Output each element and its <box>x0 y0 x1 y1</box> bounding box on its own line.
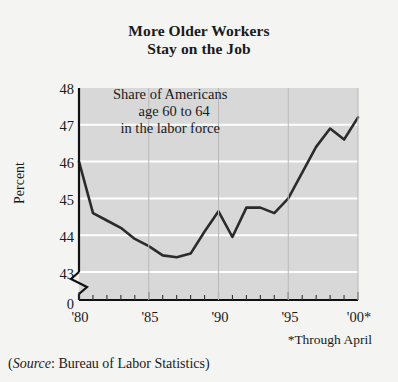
chart-figure: More Older Workers Stay on the Job Perce… <box>0 0 398 382</box>
source-line: (Source: Bureau of Labor Statistics) <box>8 356 210 371</box>
plot-area <box>0 0 398 382</box>
source-label: Source <box>13 356 51 371</box>
chart-annotation: Share of Americans age 60 to 64 in the l… <box>113 86 227 137</box>
annotation-line-2: age 60 to 64 <box>113 103 227 120</box>
footnote-through-april: *Through April <box>288 332 372 347</box>
annotation-line-1: Share of Americans <box>113 86 227 103</box>
source-text: : Bureau of Labor Statistics) <box>51 356 210 371</box>
annotation-line-3: in the labor force <box>113 120 227 137</box>
